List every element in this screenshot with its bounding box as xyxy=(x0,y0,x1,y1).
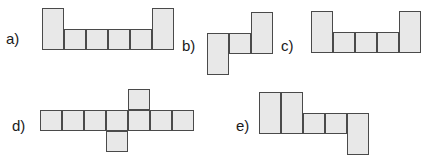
shape-a-cell xyxy=(64,29,86,50)
shape-b-cell xyxy=(207,33,229,75)
shape-e-cell xyxy=(259,92,281,134)
shape-d-cell xyxy=(128,110,150,131)
shape-d-cell xyxy=(172,110,194,131)
shape-label-a: a) xyxy=(6,31,19,46)
shape-c-cell xyxy=(355,32,377,53)
shape-a-cell xyxy=(152,8,174,50)
shape-a-cell xyxy=(42,8,64,50)
shape-e-cell xyxy=(347,113,369,155)
shape-d-cell xyxy=(106,131,128,152)
shape-d-cell xyxy=(150,110,172,131)
shape-d-cell xyxy=(128,89,150,110)
shape-a-cell xyxy=(130,29,152,50)
polyomino-figure: a)b)c)d)e) xyxy=(0,0,424,166)
shape-c-cell xyxy=(377,32,399,53)
shape-label-c: c) xyxy=(281,38,294,53)
shape-label-e: e) xyxy=(236,118,249,133)
shape-c-cell xyxy=(399,11,421,53)
shape-b-cell xyxy=(251,12,273,54)
shape-label-d: d) xyxy=(12,118,25,133)
shape-c-cell xyxy=(311,11,333,53)
shape-b-cell xyxy=(229,33,251,54)
shape-label-b: b) xyxy=(182,38,195,53)
shape-e-cell xyxy=(325,113,347,134)
shape-d-cell xyxy=(106,110,128,131)
shape-d-cell xyxy=(40,110,62,131)
shape-c-cell xyxy=(333,32,355,53)
shape-d-cell xyxy=(84,110,106,131)
shape-e-cell xyxy=(281,92,303,134)
shape-e-cell xyxy=(303,113,325,134)
shape-a-cell xyxy=(108,29,130,50)
shape-d-cell xyxy=(62,110,84,131)
shape-a-cell xyxy=(86,29,108,50)
